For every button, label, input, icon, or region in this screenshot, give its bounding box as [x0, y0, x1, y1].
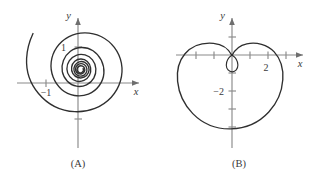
panel-b-x-axis-arrowhead — [296, 52, 303, 58]
panel-b-x-axis-label: x — [297, 58, 303, 69]
panel-a-x-axis-arrowhead — [132, 80, 139, 86]
panel-b-tick-label-2: 2 — [264, 62, 269, 73]
two-panel-polar-figure: 1 −1 y x — [0, 0, 320, 179]
panel-b-y-axis-arrowhead — [229, 18, 235, 25]
panel-a-caption: (A) — [71, 158, 86, 170]
panel-b-caption: (B) — [232, 158, 247, 170]
panel-a-y-axis-arrowhead — [75, 18, 81, 25]
panel-a-spiral-curve — [27, 33, 122, 112]
panel-b-y-axis-label: y — [219, 10, 225, 21]
panel-b: 2 −2 y x — [176, 10, 303, 148]
panel-a: 1 −1 y x — [17, 10, 139, 148]
figure-container: 1 −1 y x — [0, 0, 320, 179]
panel-a-y-axis-label: y — [65, 10, 71, 21]
panel-a-tick-label-1: 1 — [61, 42, 66, 53]
panel-a-x-axis-label: x — [133, 86, 139, 97]
panel-b-tick-label-neg2: −2 — [213, 86, 224, 97]
panel-a-tick-label-neg1: −1 — [41, 87, 52, 98]
